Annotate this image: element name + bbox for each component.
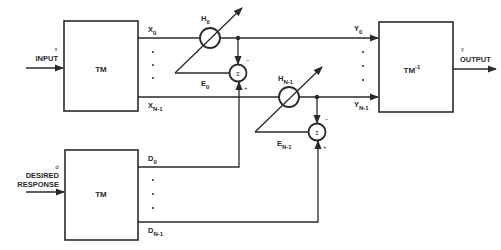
- x0-label: X0: [148, 25, 157, 36]
- input-label: INPUT: [36, 54, 59, 63]
- dn1-label: DN-1: [148, 226, 164, 237]
- d0-label: D0: [148, 154, 157, 165]
- desired-label-line1: DESIRED: [26, 171, 60, 180]
- d-ellipsis: [152, 179, 154, 209]
- desired-symbol: d: [55, 164, 58, 170]
- xn1-label: XN-1: [148, 101, 163, 112]
- summer-n1-minus: −: [325, 116, 329, 122]
- desired-label-line2: RESPONSE: [17, 180, 59, 189]
- output-label: OUTPUT: [460, 55, 491, 64]
- dn1-line: [138, 141, 318, 222]
- summer-0-symbol: Σ: [236, 71, 240, 77]
- en1-label: EN-1: [277, 139, 292, 150]
- y-ellipsis: [362, 51, 364, 81]
- summer-0-minus: −: [246, 57, 250, 63]
- hn1-adapt-arrow: [255, 67, 322, 132]
- output-symbol: y: [461, 46, 464, 52]
- e0-label: E0: [201, 79, 210, 90]
- x-ellipsis: [152, 51, 154, 79]
- adaptive-filter-diagram: TM x INPUT X0 XN-1 H0 E0 Σ − + HN-1 EN-1…: [0, 0, 501, 250]
- tm-block-top-label: TM: [95, 65, 107, 74]
- hn1-label: HN-1: [278, 74, 294, 85]
- summer-n1-plus: +: [323, 144, 327, 150]
- tm-block-bottom-label: TM: [95, 190, 107, 199]
- summer-n1-symbol: Σ: [315, 130, 319, 136]
- y0-label: Y0: [354, 24, 363, 35]
- input-symbol: x: [55, 46, 58, 52]
- h0-adapt-arrow: [175, 8, 242, 73]
- hn1-weight-circle: [279, 87, 299, 107]
- h0-label: H0: [201, 14, 210, 25]
- yn1-label: YN-1: [354, 100, 369, 111]
- summer-0-plus: +: [244, 85, 248, 91]
